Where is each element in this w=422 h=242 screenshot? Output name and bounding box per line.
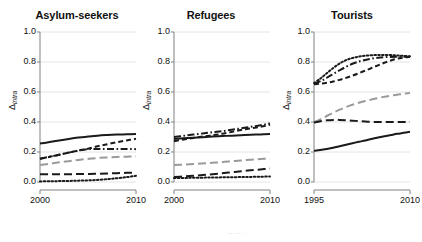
y-tick-label: 0.2	[286, 146, 310, 156]
x-tick-label: 2010	[398, 195, 422, 205]
panel-refugees: RefugeesΔintra0.00.20.40.60.81.020002010	[140, 0, 274, 210]
series-line-solid-black	[314, 132, 410, 151]
y-tick-label: 1.0	[146, 26, 170, 36]
y-tick-label: 0.6	[12, 86, 36, 96]
series-line-black-longdash	[40, 173, 136, 175]
series-line-dotted-black	[40, 176, 136, 182]
series-line-dashdot-black	[40, 149, 136, 159]
panel-tourists: TouristsΔintra0.00.20.40.60.81.019952010	[274, 0, 414, 210]
series-line-dashdot-black	[314, 57, 410, 84]
series-line-gray-longdash	[174, 158, 270, 165]
caption-partial-legend: — — · · ·	[228, 230, 252, 236]
caption-strip: — — · · ·	[0, 210, 414, 242]
series-line-gray-longdash	[40, 157, 136, 166]
y-tick-label: 0.4	[286, 116, 310, 126]
y-tick-label: 0.2	[12, 146, 36, 156]
x-tick-label: 1995	[302, 195, 326, 205]
x-tick-label: 2000	[162, 195, 186, 205]
y-tick-label: 0.8	[146, 56, 170, 66]
y-tick-label: 0.0	[146, 176, 170, 186]
y-tick-label: 1.0	[286, 26, 310, 36]
series-line-gray-longdash	[314, 93, 410, 122]
y-tick-label: 1.0	[12, 26, 36, 36]
y-tick-label: 0.6	[146, 86, 170, 96]
series-line-black-longdash	[174, 169, 270, 177]
panel-asylum-seekers: Asylum-seekersΔintra0.00.20.40.60.81.020…	[0, 0, 140, 210]
y-tick-label: 0.8	[12, 56, 36, 66]
series-line-dotted-black	[314, 55, 410, 83]
x-tick-label: 2000	[28, 195, 52, 205]
y-tick-label: 0.2	[146, 146, 170, 156]
y-tick-label: 0.8	[286, 56, 310, 66]
y-tick-label: 0.0	[286, 176, 310, 186]
y-tick-label: 0.4	[12, 116, 36, 126]
y-tick-label: 0.4	[146, 116, 170, 126]
series-line-dashed-black	[314, 57, 410, 84]
y-tick-label: 0.6	[286, 86, 310, 96]
panel-row: Asylum-seekersΔintra0.00.20.40.60.81.020…	[0, 0, 414, 210]
y-tick-label: 0.0	[12, 176, 36, 186]
